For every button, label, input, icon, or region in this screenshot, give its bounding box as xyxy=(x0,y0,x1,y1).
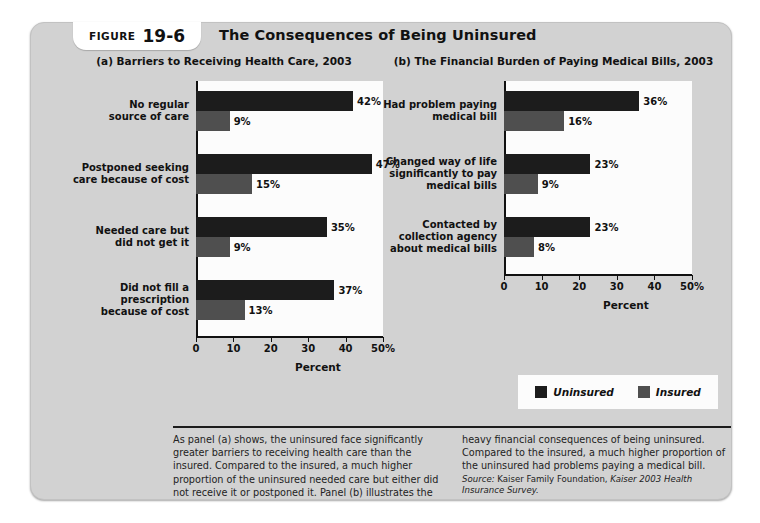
caption-text-left: As panel (a) shows, the uninsured face s… xyxy=(173,433,444,499)
category-label-line: did not get it xyxy=(59,237,189,249)
source-text: Kaiser Family Foundation, xyxy=(495,474,611,484)
bar-value-label: 23% xyxy=(594,222,618,233)
bar-uninsured xyxy=(196,217,327,237)
figure-panel: Figure 19-6 The Consequences of Being Un… xyxy=(30,22,732,500)
chart-b-bars: 36%16%Had problem payingmedical bill23%9… xyxy=(381,55,726,355)
bar-insured xyxy=(196,237,230,257)
legend-swatch-insured-icon xyxy=(638,386,650,398)
category-label: Changed way of lifesignificantly to paym… xyxy=(379,156,497,192)
bar-insured xyxy=(504,111,564,131)
category-label-line: Changed way of life xyxy=(379,156,497,168)
figure-number: 19-6 xyxy=(142,26,185,46)
caption-source: Source: Kaiser Family Foundation, Kaiser… xyxy=(462,474,733,496)
caption-column-left: As panel (a) shows, the uninsured face s… xyxy=(173,433,444,499)
chart-panel-b: (b) The Financial Burden of Paying Medic… xyxy=(381,55,726,355)
category-label-line: medical bill xyxy=(379,111,497,123)
figure-root: Figure 19-6 The Consequences of Being Un… xyxy=(0,0,760,523)
bar-value-label: 37% xyxy=(338,285,362,296)
category-label-line: significantly to pay xyxy=(379,168,497,180)
category-label-line: medical bills xyxy=(379,180,497,192)
legend-swatch-uninsured-icon xyxy=(535,386,547,398)
caption-column-right: heavy financial consequences of being un… xyxy=(462,433,733,499)
figure-label: Figure xyxy=(89,30,135,42)
bar-value-label: 9% xyxy=(234,116,251,127)
chart-legend: Uninsured Insured xyxy=(518,375,718,409)
legend-item-uninsured: Uninsured xyxy=(535,386,614,398)
bar-uninsured xyxy=(504,154,590,174)
legend-label-insured: Insured xyxy=(656,386,701,398)
legend-item-insured: Insured xyxy=(638,386,701,398)
bar-value-label: 23% xyxy=(594,159,618,170)
category-label: Had problem payingmedical bill xyxy=(379,99,497,123)
category-label: Needed care butdid not get it xyxy=(59,225,189,249)
chart-a-bars: 42%9%No regularsource of care47%15%Postp… xyxy=(59,55,389,385)
figure-title: The Consequences of Being Uninsured xyxy=(219,27,537,43)
bar-value-label: 16% xyxy=(568,116,592,127)
chart-panel-a: (a) Barriers to Receiving Health Care, 2… xyxy=(59,55,389,385)
bar-uninsured xyxy=(196,154,372,174)
bar-uninsured xyxy=(196,91,353,111)
category-label: Postponed seekingcare because of cost xyxy=(59,162,189,186)
bar-insured xyxy=(196,174,252,194)
bar-value-label: 13% xyxy=(249,305,273,316)
figure-number-badge: Figure 19-6 xyxy=(73,22,201,50)
category-label-line: care because of cost xyxy=(59,174,189,186)
bar-uninsured xyxy=(196,280,334,300)
category-label-line: Needed care but xyxy=(59,225,189,237)
bar-value-label: 9% xyxy=(234,242,251,253)
source-label: Source: xyxy=(462,474,495,484)
bar-value-label: 8% xyxy=(538,242,555,253)
bar-value-label: 35% xyxy=(331,222,355,233)
category-label-line: because of cost xyxy=(59,306,189,318)
category-label-line: Postponed seeking xyxy=(59,162,189,174)
caption-divider xyxy=(173,426,731,428)
category-label-line: source of care xyxy=(59,111,189,123)
category-label-line: prescription xyxy=(59,294,189,306)
category-label-line: Contacted by xyxy=(379,219,497,231)
bar-insured xyxy=(504,237,534,257)
caption-text-right: heavy financial consequences of being un… xyxy=(462,433,733,473)
category-label: No regularsource of care xyxy=(59,99,189,123)
category-label-line: collection agency xyxy=(379,231,497,243)
category-label-line: about medical bills xyxy=(379,243,497,255)
figure-caption: As panel (a) shows, the uninsured face s… xyxy=(173,433,733,499)
category-label: Did not fill aprescriptionbecause of cos… xyxy=(59,282,189,318)
legend-label-uninsured: Uninsured xyxy=(553,386,614,398)
bar-value-label: 36% xyxy=(643,96,667,107)
category-label-line: No regular xyxy=(59,99,189,111)
bar-insured xyxy=(196,300,245,320)
bar-uninsured xyxy=(504,217,590,237)
category-label: Contacted bycollection agencyabout medic… xyxy=(379,219,497,255)
bar-insured xyxy=(504,174,538,194)
bar-insured xyxy=(196,111,230,131)
category-label-line: Did not fill a xyxy=(59,282,189,294)
bar-value-label: 15% xyxy=(256,179,280,190)
category-label-line: Had problem paying xyxy=(379,99,497,111)
bar-value-label: 42% xyxy=(357,96,381,107)
bar-uninsured xyxy=(504,91,639,111)
bar-value-label: 9% xyxy=(542,179,559,190)
